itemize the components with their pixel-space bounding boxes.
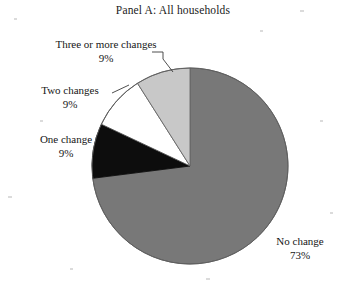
pie-label-no-change-name: No change [258, 235, 342, 249]
pie-chart-figure: Panel A: All households Three or more ch… [0, 0, 346, 289]
pie-label-no-change-percent: 73% [258, 249, 342, 263]
pie-label-one-change: One change 9% [14, 133, 118, 161]
pie-label-two-changes: Two changes 9% [12, 84, 128, 112]
pie-label-three-or-more-changes-name: Three or more changes [36, 38, 176, 52]
pie-label-one-change-name: One change [14, 133, 118, 147]
pie-label-one-change-percent: 9% [14, 147, 118, 161]
pie-label-three-or-more-changes: Three or more changes 9% [36, 38, 176, 66]
pie-label-three-or-more-changes-percent: 9% [36, 52, 176, 66]
pie-label-no-change: No change 73% [258, 235, 342, 263]
pie-label-two-changes-percent: 9% [12, 98, 128, 112]
pie-label-two-changes-name: Two changes [12, 84, 128, 98]
